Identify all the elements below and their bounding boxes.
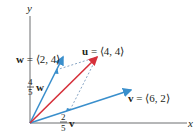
svg-text:4: 4	[28, 77, 33, 87]
scaled-w-label: 4 5 w	[27, 77, 44, 97]
y-axis-label: y	[26, 2, 32, 14]
u-label: u = ⟨4, 4⟩	[82, 45, 124, 57]
svg-text:2: 2	[61, 112, 66, 122]
vector-v	[30, 90, 131, 123]
x-axis-label: x	[187, 117, 193, 129]
w-label: w = ⟨2, 4⟩	[16, 53, 60, 65]
svg-text:5: 5	[61, 123, 66, 133]
svg-text:w: w	[36, 81, 44, 93]
svg-text:5: 5	[28, 87, 33, 97]
v-label: v = ⟨6, 2⟩	[128, 92, 170, 104]
vector-decomposition-diagram: y x u = ⟨4, 4⟩ w = ⟨2, 4⟩ v = ⟨6, 2⟩ 4 5…	[0, 0, 194, 140]
svg-text:v: v	[69, 117, 75, 129]
